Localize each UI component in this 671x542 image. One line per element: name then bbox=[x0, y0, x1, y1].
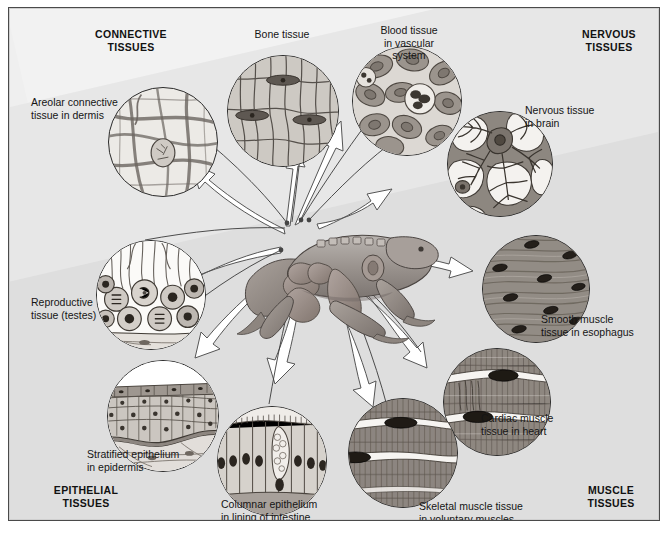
caption-blood: Blood tissue in vascular system bbox=[355, 24, 463, 62]
caption-smooth: Smooth muscle tissue in esophagus bbox=[541, 313, 657, 338]
scope-cardiac bbox=[443, 348, 551, 456]
section-heading-connective: CONNECTIVE TISSUES bbox=[71, 28, 191, 53]
caption-stratified: Stratified epithelium in epidermis bbox=[87, 448, 237, 473]
scope-skeletal bbox=[348, 398, 458, 508]
caption-skeletal: Skeletal muscle tissue in voluntary musc… bbox=[419, 500, 587, 521]
scope-bone bbox=[227, 55, 339, 167]
section-heading-epithelial: EPITHELIAL TISSUES bbox=[27, 484, 145, 509]
caption-nervous: Nervous tissue in brain bbox=[525, 104, 637, 129]
caption-reproductive: Reproductive tissue (testes) bbox=[31, 296, 135, 321]
caption-areolar: Areolar connective tissue in dermis bbox=[31, 96, 151, 121]
caption-bone: Bone tissue bbox=[221, 28, 343, 41]
section-heading-nervous: NERVOUS TISSUES bbox=[561, 28, 657, 53]
scope-reproductive bbox=[96, 240, 206, 350]
figure-plate: CONNECTIVE TISSUES NERVOUS TISSUES EPITH… bbox=[8, 7, 660, 521]
tissue-types-figure: CONNECTIVE TISSUES NERVOUS TISSUES EPITH… bbox=[0, 0, 671, 542]
caption-columnar: Columnar epithelium in lining of intesti… bbox=[221, 498, 371, 521]
scope-blood bbox=[352, 46, 462, 156]
frog-illustration bbox=[231, 194, 446, 354]
caption-cardiac: Cardiac muscle tissue in heart bbox=[481, 412, 597, 437]
